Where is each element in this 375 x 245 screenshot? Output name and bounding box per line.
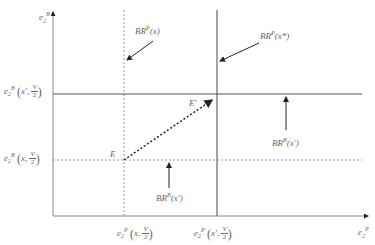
y-tick-lower: e2B (x, V2) [4,151,40,166]
label-brb-xprime-upper: BRB(x′) [272,137,299,148]
brp-xstar-pointer [220,43,259,61]
brp-x-pointer [127,41,153,60]
label-brb-xprime-lower: BRB(x′) [156,192,183,203]
y-axis-label: e2B [39,11,50,24]
label-brp-x: BRP(x) [135,25,160,36]
y-tick-upper: e2B (x′, V2) [4,84,42,99]
point-e-label: E [110,150,116,159]
diagram-canvas [0,0,375,245]
x-tick-left: e2P (x, V2) [117,226,153,241]
x-tick-right: e2P (x′, V2) [194,226,232,241]
point-eprime-label: E′ [189,99,196,108]
label-brp-xstar: BRP(x*) [260,30,289,41]
e-to-eprime-arrow [124,100,212,160]
x-axis-label: e2P [358,226,369,239]
